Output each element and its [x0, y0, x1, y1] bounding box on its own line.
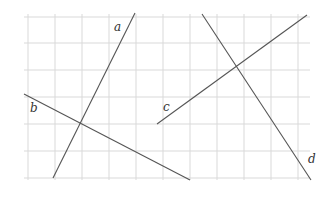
grid: [24, 14, 310, 180]
line-label-c: c: [163, 100, 170, 114]
line-label-d: d: [308, 152, 316, 166]
line-diagram: abcd: [0, 0, 336, 198]
line-label-a: a: [114, 20, 121, 34]
line-labels: abcd: [30, 20, 316, 166]
line-label-b: b: [30, 101, 38, 115]
line-a: [53, 13, 135, 178]
